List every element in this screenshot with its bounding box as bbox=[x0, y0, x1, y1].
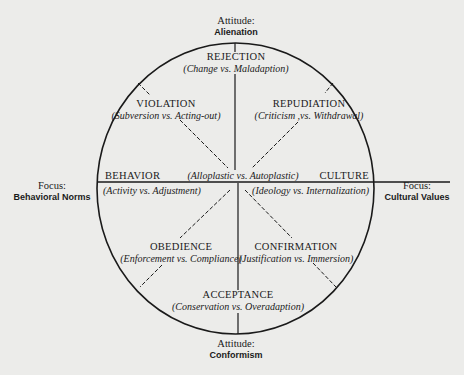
top-axis-value: Alienation bbox=[214, 28, 258, 37]
rejection-subtitle: (Change vs. Maladaption) bbox=[183, 64, 288, 74]
bottom-axis-heading: Attitude: bbox=[217, 339, 254, 350]
confirmation-subtitle: (Justification vs. Immersion) bbox=[239, 254, 354, 264]
culture-title: CULTURE bbox=[319, 171, 369, 182]
left-axis-heading: Focus: bbox=[38, 181, 66, 192]
diagonal-lower-left-inner bbox=[180, 190, 230, 238]
repudiation-title: REPUDIATION bbox=[273, 99, 346, 110]
left-axis-value: Behavioral Norms bbox=[13, 193, 90, 202]
acceptance-subtitle: (Conservation vs. Overadaption) bbox=[172, 302, 304, 312]
diagonal-lower-right-outer bbox=[313, 263, 336, 287]
diagonal-upper-left-outer bbox=[138, 83, 150, 95]
violation-title: VIOLATION bbox=[136, 99, 195, 110]
confirmation-title: CONFIRMATION bbox=[255, 242, 338, 253]
obedience-subtitle: (Enforcement vs. Compliance) bbox=[120, 254, 242, 264]
diagonal-lower-left-outer bbox=[140, 265, 162, 287]
diagonal-upper-right-inner bbox=[252, 122, 298, 168]
behavior-subtitle: (Activity vs. Adjustment) bbox=[103, 186, 201, 196]
right-axis-value: Cultural Values bbox=[384, 193, 449, 202]
top-axis-heading: Attitude: bbox=[217, 16, 254, 27]
diagonal-upper-right-outer bbox=[325, 83, 333, 93]
culture-subtitle: (Ideology vs. Internalization) bbox=[252, 186, 369, 196]
bottom-axis-value: Conformism bbox=[209, 351, 262, 360]
repudiation-subtitle: (Criticism ,vs. Withdrawal) bbox=[255, 111, 364, 121]
rejection-title: REJECTION bbox=[207, 52, 266, 63]
acceptance-title: ACCEPTANCE bbox=[203, 290, 274, 301]
violation-subtitle: (Subversion vs. Acting-out) bbox=[112, 111, 221, 121]
behavior-title: BEHAVIOR bbox=[105, 171, 160, 182]
diagonal-lower-right-inner bbox=[245, 190, 292, 238]
center-label: (Alloplastic vs. Autoplastic) bbox=[187, 171, 298, 181]
right-axis-heading: Focus: bbox=[403, 181, 431, 192]
obedience-title: OBEDIENCE bbox=[150, 242, 212, 253]
diagonal-upper-left-inner bbox=[180, 120, 228, 168]
